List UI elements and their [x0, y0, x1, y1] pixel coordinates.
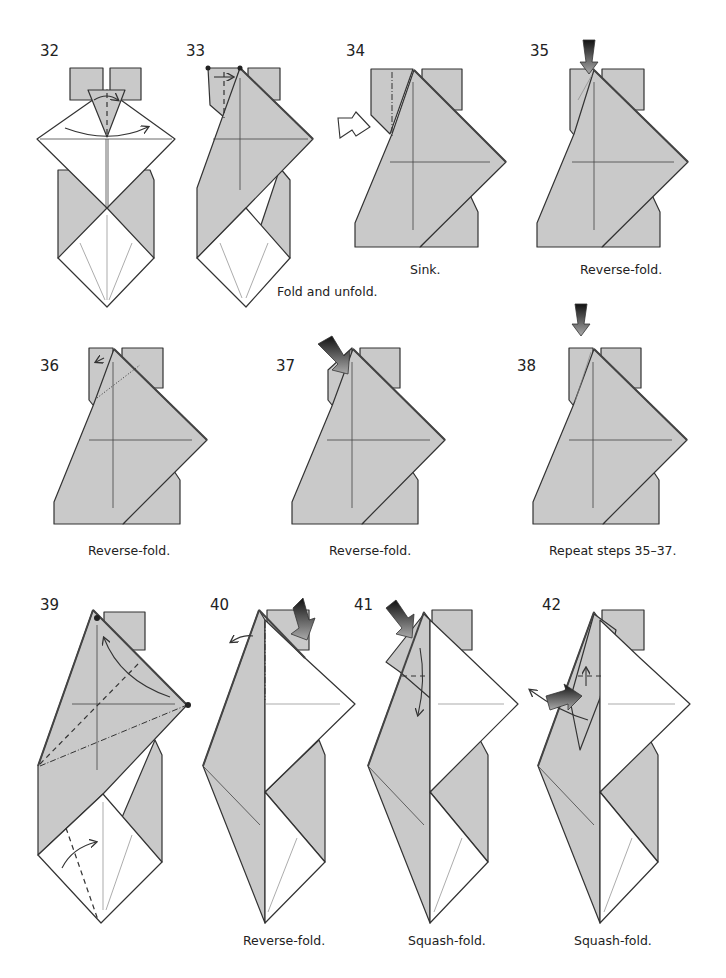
step-38: 38 Repeat steps 35–37.: [517, 340, 717, 580]
step-caption: Squash-fold.: [408, 933, 486, 948]
step-36: 36 Reverse-fold.: [40, 340, 240, 580]
step-caption: Sink.: [410, 262, 441, 277]
step-40: 40 Reverse-fold.: [195, 590, 365, 978]
step-42-diagram: [520, 590, 720, 978]
step-41: 41 Squash-fold.: [352, 590, 532, 978]
step-32-diagram: [0, 0, 180, 320]
step-33-diagram: [180, 0, 330, 320]
step-37: 37 Reverse-fold.: [276, 340, 476, 580]
step-caption: Reverse-fold.: [580, 262, 662, 277]
step-42: 42 Squash-fold.: [520, 590, 720, 978]
step-caption: Reverse-fold.: [88, 543, 170, 558]
step-caption: Reverse-fold.: [243, 933, 325, 948]
step-40-diagram: [195, 590, 365, 978]
push-arrow-icon: [318, 336, 350, 374]
step-41-diagram: [352, 590, 532, 978]
step-39-diagram: [0, 590, 200, 978]
push-arrow-icon: [386, 600, 414, 638]
step-caption: Repeat steps 35–37.: [549, 543, 677, 558]
step-34: 34 Sink.: [330, 0, 510, 320]
step-33: 33 Fold and unfold.: [180, 0, 330, 320]
step-caption: Squash-fold.: [574, 933, 652, 948]
step-32: 32: [0, 0, 180, 320]
step-35: 35 Reverse-fold.: [510, 0, 710, 320]
step-caption: Reverse-fold.: [329, 543, 411, 558]
step-39: 39: [0, 590, 200, 978]
